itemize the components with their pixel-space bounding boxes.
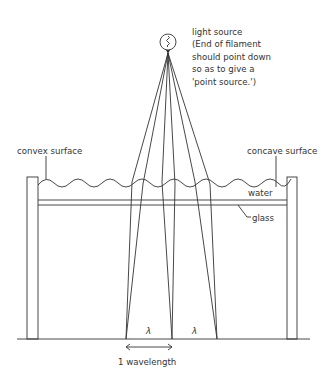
concave-surface-label: concave surface (247, 145, 317, 157)
lambda-label-1: λ (146, 325, 151, 337)
light-source-note: light source (End of filament should poi… (192, 26, 271, 88)
water-surface (38, 179, 291, 187)
right-tank-wall (287, 177, 297, 339)
glass-label: glass (252, 212, 274, 224)
light-rays (126, 53, 217, 339)
ripple-tank-diagram (0, 0, 329, 373)
wavelength-label: 1 wavelength (118, 356, 176, 368)
convex-surface-label: convex surface (17, 145, 82, 157)
lambda-label-2: λ (192, 325, 197, 337)
water-label: water (248, 187, 273, 199)
filament-icon (167, 36, 170, 47)
left-tank-wall (27, 177, 38, 339)
wavelength-arrow (126, 344, 172, 350)
light-source-label: light source (192, 26, 271, 38)
